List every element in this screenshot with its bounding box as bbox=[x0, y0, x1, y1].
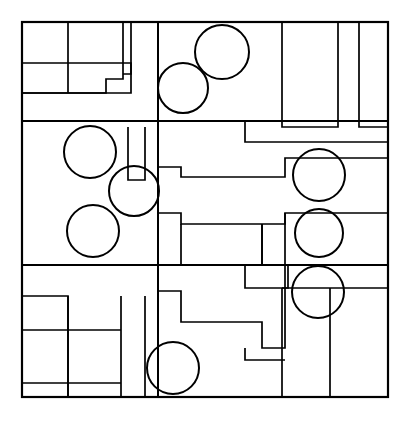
line-drawing-figure bbox=[0, 0, 412, 425]
